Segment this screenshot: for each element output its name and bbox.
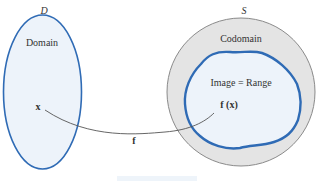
mapping-label-f: f	[132, 135, 136, 146]
domain-label: Domain	[26, 37, 58, 48]
codomain-name-label: S	[242, 5, 247, 16]
image-range-label: Image = Range	[210, 77, 272, 88]
image-point-fx: f (x)	[220, 99, 238, 111]
function-mapping-diagram: D Domain x S Codomain Image = Range f (x…	[0, 0, 317, 181]
image-range-region	[185, 52, 301, 149]
caption-band	[117, 176, 197, 181]
codomain-label: Codomain	[220, 33, 262, 44]
domain-point-x: x	[36, 101, 41, 112]
domain-name-label: D	[39, 5, 48, 16]
